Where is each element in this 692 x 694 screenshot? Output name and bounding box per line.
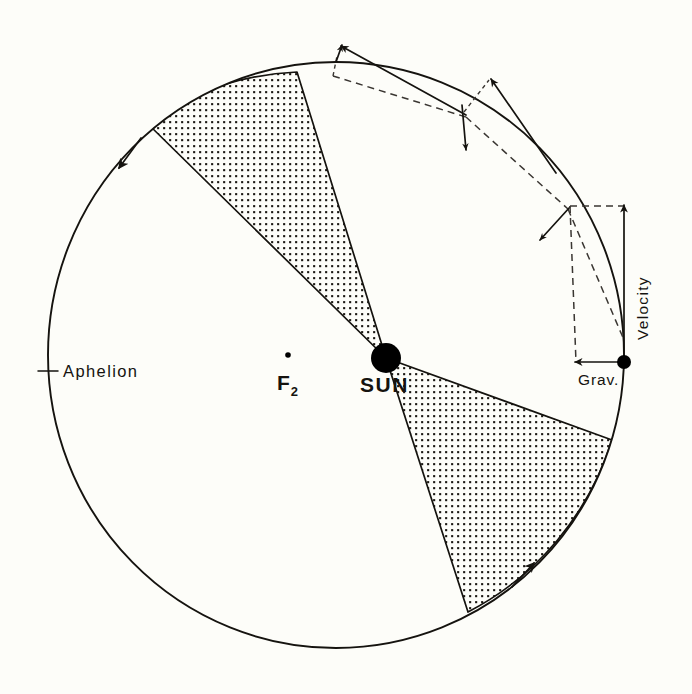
aphelion-label: Aphelion bbox=[63, 362, 138, 380]
focus2-subscript: 2 bbox=[291, 384, 298, 399]
figure-canvas: Aphelion F2 SUN bbox=[0, 0, 692, 694]
velocity-label: Velocity bbox=[634, 276, 651, 340]
planet-body-icon bbox=[617, 355, 631, 369]
orbital-mechanics-figure: Aphelion F2 SUN bbox=[0, 0, 692, 694]
gravity-label: Grav. bbox=[578, 371, 619, 388]
sun-label: SUN bbox=[360, 373, 409, 396]
focus2-letter: F bbox=[277, 371, 290, 394]
paper-background bbox=[0, 0, 692, 694]
focus2-dot-icon bbox=[285, 352, 291, 358]
sun-body-icon bbox=[371, 343, 401, 373]
